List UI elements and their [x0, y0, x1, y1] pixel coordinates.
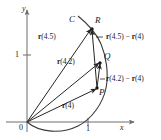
vector-label-r4: r(4)	[62, 102, 74, 110]
point-q-dot	[98, 61, 101, 64]
vector-label-r45: r(4.5)	[38, 33, 56, 41]
x-axis-label: x	[120, 124, 124, 132]
point-label-q: Q	[104, 52, 111, 61]
x-tick-label-1: 1	[86, 125, 90, 133]
curve-label-c: C	[69, 15, 75, 24]
figure-canvas	[0, 0, 161, 140]
position-vector-r45-arrow	[27, 29, 91, 122]
axes-group	[6, 10, 134, 132]
point-label-r: R	[95, 16, 101, 25]
y-axis-label: y	[22, 5, 26, 13]
secant-vector-pq-arrow	[97, 64, 100, 88]
secant-label-r42-minus-r4: r(4.2) − r(4)	[106, 75, 144, 83]
secant-label-r45-minus-r4: r(4.5) − r(4)	[106, 33, 144, 41]
vector-secant-figure: y x 0 1 1 C R Q P r(4.5) r(4.2) r(4) r(4…	[0, 0, 161, 140]
point-label-p: P	[99, 88, 105, 97]
origin-label: 0	[19, 124, 23, 132]
vector-label-r42: r(4.2)	[57, 58, 75, 66]
point-r-dot	[90, 27, 93, 30]
secant-vector-pr-arrow	[92, 30, 97, 88]
y-tick-label-1: 1	[15, 51, 19, 59]
